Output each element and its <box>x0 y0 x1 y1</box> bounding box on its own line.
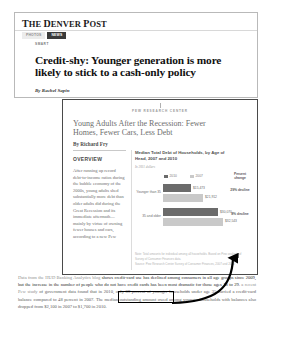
chart-group-older: 35 and older $30,070 $32,543 8% decline <box>135 206 251 229</box>
article-kicker: SMART <box>35 42 49 46</box>
bar-row-2007: $21,912 <box>163 194 229 202</box>
article-byline: By Rachel Sapin <box>35 88 69 93</box>
bar-row-2010: $15,473 <box>163 184 229 192</box>
article-headline: Credit-shy: Younger generation is more l… <box>35 54 240 79</box>
overview-paragraph: After running up record debt-to-income r… <box>73 168 125 241</box>
legend-label-2010: 2010 <box>170 174 177 178</box>
debt-bar-chart: Median Total Debt of Households, by Age … <box>135 150 251 229</box>
report-title: Young Adults After the Recession: Fewer … <box>73 119 223 138</box>
chart-legend: 2010 2007 Percent change <box>135 172 251 181</box>
legend-swatch-2007 <box>190 175 194 178</box>
news-article-page: THE DENVER POST PHOTOS NEWS SMART Credit… <box>14 12 258 98</box>
legend-item-2007: 2007 <box>190 174 203 178</box>
chart-source: Source: Pew Research Center Survey of Co… <box>135 262 251 267</box>
chart-note: Note: Total amounts for individual among… <box>135 252 251 262</box>
percent-change-header: Percent change <box>229 172 251 180</box>
article-nav-tabs[interactable]: PHOTOS NEWS <box>22 32 66 39</box>
report-byline: By Richard Fry <box>73 141 108 147</box>
bar-2010 <box>163 208 218 216</box>
chart-group-younger: Younger than 35 $15,473 $21,912 29% decl… <box>135 182 251 205</box>
percent-change-value: 8% decline <box>229 212 251 216</box>
bar-value-2007: $32,543 <box>225 219 237 223</box>
chart-title: Median Total Debt of Households, by Age … <box>135 150 227 162</box>
bar-row-2010: $30,070 <box>163 208 229 216</box>
legend-label-2007: 2007 <box>196 174 203 178</box>
bar-row-2007: $32,543 <box>163 218 229 226</box>
percent-change-value: 29% decline <box>229 188 251 192</box>
report-title-divider <box>73 150 126 151</box>
bar-value-2010: $15,473 <box>193 186 205 190</box>
overview-heading: OVERVIEW <box>73 156 102 162</box>
bar-2007 <box>163 194 203 202</box>
bar-2007 <box>163 218 223 226</box>
legend-item-2010: 2010 <box>164 174 177 178</box>
masthead-divider <box>15 30 257 31</box>
bar-value-2007: $21,912 <box>205 195 217 199</box>
chart-column-divider <box>131 150 132 270</box>
masthead-text: THE DENVER POST <box>22 19 107 29</box>
annotation-highlight-box <box>118 291 174 303</box>
pew-brand-label: PEW RESEARCH CENTER <box>63 109 257 113</box>
chart-subtitle: In 2011 dollars <box>135 165 251 169</box>
pew-report-overlay: PEW RESEARCH CENTER Young Adults After t… <box>62 99 258 275</box>
chart-notes: Note: Total amounts for individual among… <box>135 252 251 267</box>
chart-category-label: Younger than 35 <box>135 190 161 194</box>
legend-swatch-2010 <box>164 175 168 178</box>
nav-tab-photos[interactable]: PHOTOS <box>22 32 45 39</box>
chart-bars: $15,473 $21,912 <box>163 184 229 203</box>
pew-logo-icon <box>160 103 161 108</box>
bar-2010 <box>163 184 191 192</box>
body-lead-link[interactable]: Data from the HUD Banking Analytics blog <box>18 275 100 280</box>
chart-bars: $30,070 $32,543 <box>163 208 229 227</box>
nav-tab-news[interactable]: NEWS <box>47 32 66 39</box>
chart-category-label: 35 and older <box>135 214 161 218</box>
site-masthead: THE DENVER POST <box>22 18 107 29</box>
